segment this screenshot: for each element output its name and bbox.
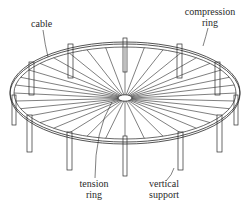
compression-ring-label-line2: ring — [180, 17, 240, 28]
cable-roof-diagram — [0, 0, 249, 207]
vertical-support-label-line1: vertical — [142, 178, 186, 189]
tension-ring — [118, 95, 132, 101]
cable-line — [40, 63, 120, 96]
cable-line — [106, 101, 124, 139]
cable-line — [129, 58, 196, 96]
compression-ring-leader — [203, 28, 208, 46]
back-supports — [29, 38, 220, 95]
compression-ring-label-line1: compression — [180, 6, 240, 17]
tension-ring-leader — [95, 102, 112, 178]
radial-cables — [14, 47, 236, 139]
cable-line — [130, 63, 210, 96]
vertical-support-label-line2: support — [142, 189, 186, 200]
cable-line — [54, 58, 121, 96]
vertical-support — [215, 62, 220, 95]
cable-label: cable — [31, 18, 52, 29]
tension-ring-label-line2: ring — [72, 189, 116, 200]
cable-line — [106, 48, 124, 95]
tension-ring-label-line1: tension — [72, 178, 116, 189]
cable-line — [126, 48, 144, 95]
cable-line — [130, 99, 221, 116]
compression-ring-label: compression ring — [180, 6, 240, 28]
cable-line — [40, 100, 120, 123]
cable-line — [70, 53, 123, 95]
cable-leader — [43, 30, 48, 57]
vertical-support-label: vertical support — [142, 178, 186, 200]
tension-ring-label: tension ring — [72, 178, 116, 200]
cable-line — [130, 100, 210, 123]
cable-line — [128, 53, 181, 95]
cable-line — [126, 101, 144, 139]
